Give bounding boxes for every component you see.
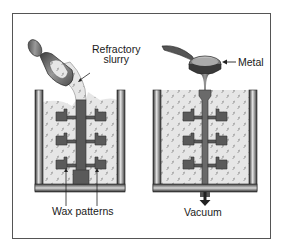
label-metal: Metal [238,57,264,67]
flask-right-wall [117,90,125,191]
flask-left-wall-2 [153,90,161,191]
metal-ladle [162,46,221,90]
flask-left-wall [35,90,43,191]
slurry-leader [80,73,90,80]
label-vacuum: Vacuum [184,207,222,217]
metal-stream [201,74,209,90]
flask-right-wall-2 [249,90,257,191]
metal-arrowhead [222,60,227,65]
flask-bottom [35,184,125,192]
flask-bottom-2 [153,184,257,192]
label-wax-patterns: Wax patterns [52,206,113,216]
diagram-canvas: Refractory slurry Metal Wax patterns Vac… [0,0,284,249]
label-refractory-slurry: Refractory slurry [92,44,140,64]
label-slurry: slurry [92,54,140,64]
right-panel [153,46,257,206]
slurry-ladle [25,37,73,86]
